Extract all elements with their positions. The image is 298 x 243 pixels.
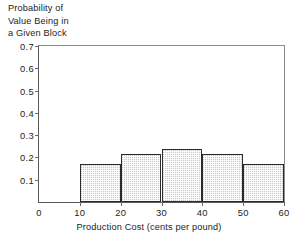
bars-layer [39,46,284,202]
x-axis-tick [121,202,122,206]
histogram-bar [202,154,243,202]
x-axis-tick-label: 10 [74,207,85,218]
y-axis-title: Probability of Value Being in a Given Bl… [8,2,138,40]
x-axis-tick [162,202,163,206]
y-axis-tick-label: 0.5 [20,85,34,96]
x-axis-tick-label: 40 [197,207,208,218]
y-axis-tick-label: 0.2 [20,152,34,163]
y-axis-tick [35,91,39,92]
histogram-bar [243,164,284,202]
y-axis-tick [35,46,39,47]
y-axis-tick [35,68,39,69]
x-axis-tick-label: 20 [115,207,126,218]
x-axis-tick-label: 60 [278,207,289,218]
y-axis-tick [35,135,39,136]
x-axis-tick [202,202,203,206]
histogram-bar [121,154,162,202]
histogram-figure: Probability of Value Being in a Given Bl… [0,0,298,243]
y-axis-tick-label: 0.3 [20,130,34,141]
x-axis-tick-label: 50 [238,207,249,218]
x-axis-tick [284,202,285,206]
histogram-bar [80,164,121,202]
x-axis-tick-label: 30 [156,207,167,218]
histogram-bar [162,149,203,202]
y-axis-tick [35,180,39,181]
x-axis-title: Production Cost (cents per pound) [0,222,298,232]
y-axis-tick-label: 0.1 [20,174,34,185]
y-axis-tick [35,113,39,114]
y-axis-tick-label: 0.4 [20,107,34,118]
y-axis-tick-label: 0.7 [20,41,34,52]
plot-area: 0.10.20.30.40.50.60.70102030405060 [38,45,285,203]
x-axis-tick [80,202,81,206]
y-axis-tick [35,157,39,158]
x-axis-tick [243,202,244,206]
x-axis-tick-label: 0 [36,207,42,218]
y-axis-tick-label: 0.6 [20,63,34,74]
